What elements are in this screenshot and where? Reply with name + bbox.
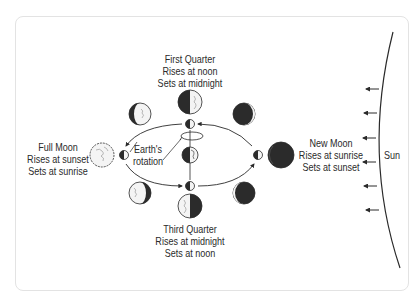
orbit-moon-right xyxy=(254,151,263,160)
waning-crescent-moon-icon xyxy=(233,182,255,204)
earth-rotation-label: Earth's rotation xyxy=(131,143,165,167)
third-quarter-moon-icon xyxy=(178,194,202,218)
orbit-moon-top xyxy=(186,120,195,129)
waning-gibbous-moon-icon xyxy=(129,182,151,204)
earth-icon xyxy=(182,147,198,163)
waxing-crescent-moon-icon xyxy=(233,103,255,125)
full-moon-icon xyxy=(90,143,114,167)
orbit-moon-left xyxy=(120,151,129,160)
waxing-gibbous-moon-icon xyxy=(129,103,151,125)
full-moon-label: Full Moon Rises at sunset Sets at sunris… xyxy=(24,141,93,177)
sun-label: Sun xyxy=(382,149,403,161)
first-quarter-label: First Quarter Rises at noon Sets at midn… xyxy=(156,53,225,89)
rotation-pointer xyxy=(163,139,181,160)
rotation-loop xyxy=(181,132,203,140)
first-quarter-moon-icon xyxy=(178,90,202,114)
third-quarter-label: Third Quarter Rises at midnight Sets at … xyxy=(151,223,228,259)
new-moon-icon xyxy=(268,142,294,168)
new-moon-label: New Moon Rises at sunrise Sets at sunset xyxy=(297,137,366,173)
orbit-moon-bottom xyxy=(186,182,195,191)
